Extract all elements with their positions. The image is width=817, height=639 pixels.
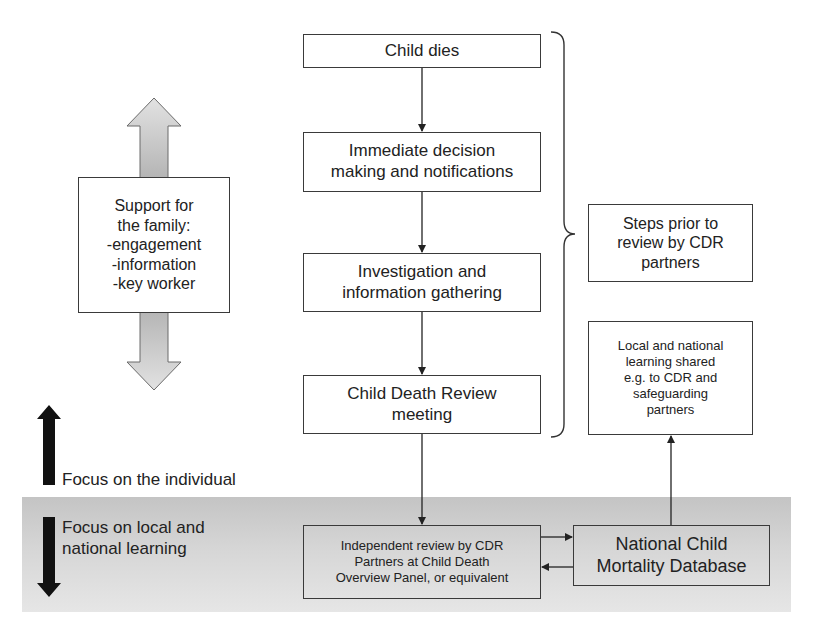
family-support-label: Support for the family: -engagement -inf…: [107, 196, 201, 294]
learning-shared-box: Local and national learning shared e.g. …: [588, 321, 753, 435]
steps-prior-label: Steps prior to review by CDR partners: [617, 214, 724, 273]
national-database-box: National Child Mortality Database: [573, 525, 770, 586]
focus-individual-up-arrow-icon: [37, 405, 61, 485]
steps-prior-box: Steps prior to review by CDR partners: [588, 204, 753, 282]
steps-brace-icon: [551, 32, 575, 437]
flow-label: Investigation and information gathering: [342, 262, 502, 303]
focus-learning-label: Focus on local and national learning: [62, 518, 205, 559]
focus-learning-down-arrow-icon: [37, 517, 61, 597]
flow-box-independent-review: Independent review by CDR Partners at Ch…: [303, 525, 541, 599]
flow-label: Child dies: [385, 41, 460, 62]
family-support-box: Support for the family: -engagement -inf…: [78, 177, 230, 313]
flow-label: Independent review by CDR Partners at Ch…: [336, 538, 509, 586]
flow-box-cdr-meeting: Child Death Review meeting: [303, 375, 541, 434]
focus-individual-label: Focus on the individual: [62, 470, 236, 491]
national-database-label: National Child Mortality Database: [596, 534, 746, 578]
learning-shared-label: Local and national learning shared e.g. …: [618, 338, 724, 417]
flow-label: Immediate decision making and notificati…: [331, 141, 513, 182]
flow-box-child-dies: Child dies: [303, 34, 541, 68]
flow-label: Child Death Review meeting: [347, 384, 496, 425]
flow-box-investigation: Investigation and information gathering: [303, 253, 541, 312]
flow-box-immediate-decision: Immediate decision making and notificati…: [303, 132, 541, 192]
